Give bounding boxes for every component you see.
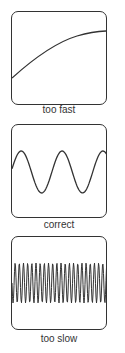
- label-too-slow: too slow: [0, 333, 118, 344]
- sine-wave-icon: [12, 125, 107, 218]
- panel-too-fast: [11, 11, 107, 105]
- curve-wave-icon: [12, 12, 107, 105]
- label-correct: correct: [0, 219, 118, 230]
- panel-correct: [11, 124, 107, 218]
- panel-too-slow: [11, 236, 107, 330]
- label-too-fast: too fast: [0, 104, 118, 115]
- dense-wave-icon: [12, 237, 107, 330]
